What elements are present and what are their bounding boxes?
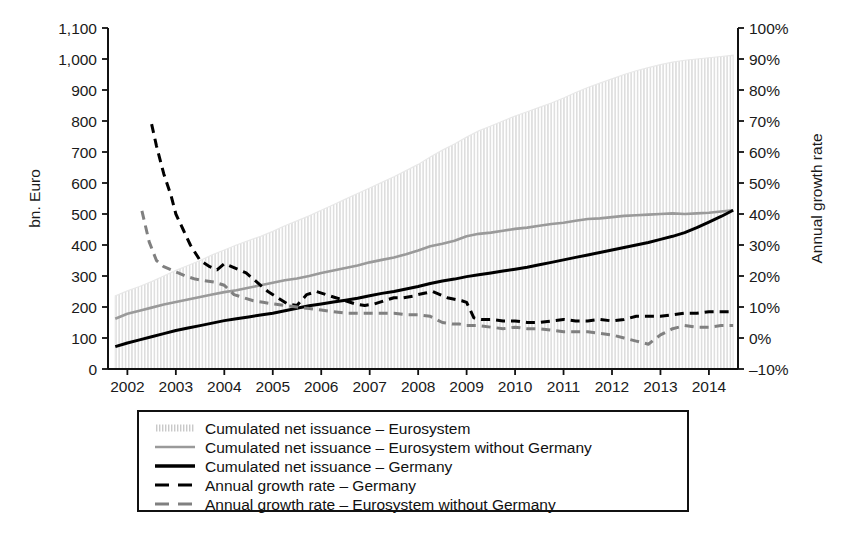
y2-axis-title-text: Annual growth rate xyxy=(808,133,825,263)
x-tick-label: 2008 xyxy=(401,378,435,395)
y-tick-label: 100 xyxy=(71,330,97,347)
y2-tick-label: 100% xyxy=(749,20,789,37)
chart-figure: 01002003004005006007008009001,0001,100–1… xyxy=(0,0,852,557)
y2-tick-label: 20% xyxy=(749,268,780,285)
y2-tick-label: 50% xyxy=(749,175,780,192)
y-tick-label: 400 xyxy=(71,237,97,254)
y-tick-label: 1,000 xyxy=(58,51,97,68)
y-tick-label: 300 xyxy=(71,268,97,285)
x-tick-label: 2005 xyxy=(256,378,290,395)
x-tick-label: 2006 xyxy=(304,378,338,395)
legend-item-1: Cumulated net issuance – Eurosystem with… xyxy=(155,439,592,456)
y-tick-label: 700 xyxy=(71,144,97,161)
plot-area xyxy=(115,55,733,369)
y-tick-label: 0 xyxy=(88,361,97,378)
legend-item-text: Cumulated net issuance – Germany xyxy=(205,458,453,475)
y2-tick-label: 90% xyxy=(749,51,780,68)
x-tick-label: 2009 xyxy=(449,378,483,395)
y2-tick-label: 40% xyxy=(749,206,780,223)
x-tick-label: 2014 xyxy=(692,378,727,395)
x-tick-label: 2003 xyxy=(159,378,193,395)
y2-tick-label: 30% xyxy=(749,237,780,254)
y2-tick-label: 10% xyxy=(749,299,780,316)
x-tick-label: 2007 xyxy=(352,378,386,395)
y-tick-label: 600 xyxy=(71,175,97,192)
y2-tick-label: –10% xyxy=(749,361,789,378)
y-tick-label: 900 xyxy=(71,82,97,99)
legend-item-text: Annual growth rate – Germany xyxy=(205,477,416,494)
x-tick-label: 2012 xyxy=(595,378,629,395)
y-axis-title-text: bn. Euro xyxy=(26,169,43,228)
x-tick-label: 2004 xyxy=(207,378,242,395)
y-tick-label: 500 xyxy=(71,206,97,223)
x-tick-label: 2010 xyxy=(498,378,533,395)
y2-tick-label: 80% xyxy=(749,82,780,99)
y-tick-label: 800 xyxy=(71,113,97,130)
y2-tick-label: 0% xyxy=(749,330,772,347)
y-tick-label: 200 xyxy=(71,299,97,316)
x-tick-label: 2011 xyxy=(547,378,580,395)
x-tick-label: 2002 xyxy=(110,378,144,395)
chart-canvas: 01002003004005006007008009001,0001,100–1… xyxy=(0,0,852,557)
x-tick-label: 2013 xyxy=(643,378,677,395)
y2-tick-label: 70% xyxy=(749,113,780,130)
y-tick-label: 1,100 xyxy=(58,20,97,37)
legend-item-4: Annual growth rate – Eurosystem without … xyxy=(155,496,556,513)
chart-legend: Cumulated net issuance – EurosystemCumul… xyxy=(138,411,688,513)
legend-item-text: Annual growth rate – Eurosystem without … xyxy=(205,496,556,513)
legend-item-text: Cumulated net issuance – Eurosystem with… xyxy=(205,439,592,456)
legend-swatch-hatch xyxy=(155,425,195,432)
y2-tick-label: 60% xyxy=(749,144,780,161)
legend-item-text: Cumulated net issuance – Eurosystem xyxy=(205,420,470,437)
